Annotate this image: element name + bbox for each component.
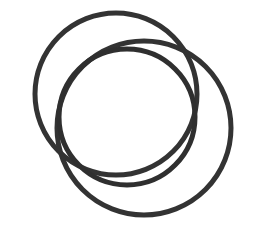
rings-illustration bbox=[0, 0, 260, 238]
drawing-canvas bbox=[0, 0, 260, 238]
